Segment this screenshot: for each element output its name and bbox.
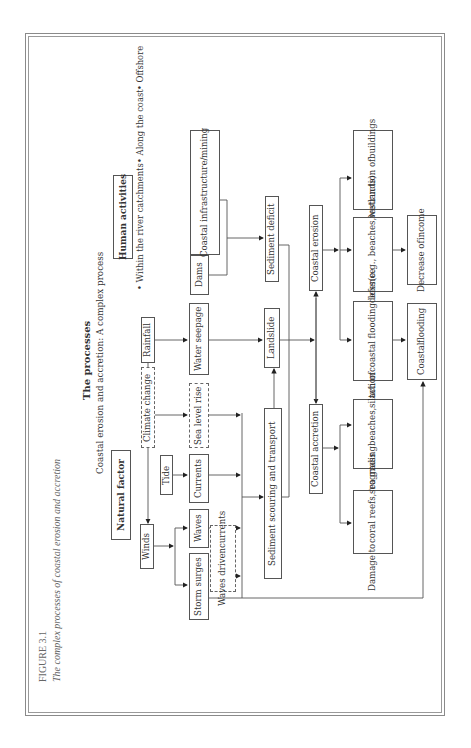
human-activities-header: Human activities — [113, 175, 133, 259]
diagram-title: The processes — [80, 300, 94, 420]
breach-line2: coastal flooding — [368, 303, 378, 372]
damage-line1: Damage to — [368, 543, 378, 590]
node-coastal-accretion: Coastal accretion — [309, 404, 323, 494]
node-climate-change: Climate change — [141, 367, 155, 448]
habitat-line3: wetlands) — [368, 175, 378, 218]
infra-line1: Coastal infrastructure/ — [200, 158, 210, 257]
flooding-line1: Coastal — [417, 343, 427, 376]
node-sea-level-rise: Sea level rise — [189, 383, 209, 448]
node-breach-defence: Breach of coastal flooding defence — [353, 301, 393, 381]
damage-line3: sea grass — [368, 453, 378, 494]
node-currents: Currents — [189, 454, 209, 503]
income-line2: income — [417, 208, 427, 240]
bullet-offshore: • Offshore — [136, 46, 146, 90]
node-waves: Waves — [189, 509, 209, 548]
waves-driven-line2: currents — [218, 511, 228, 548]
node-sediment-scouring: Sediment scouring and transport — [264, 408, 282, 579]
node-decrease-income: Decrease of income — [407, 215, 437, 285]
node-water-seepage: Water seepage — [189, 303, 209, 375]
bullet-river-catchments: • Within the river catchments — [136, 163, 146, 290]
node-damage-reefs: Damage to coral reefs, sea grass — [353, 490, 393, 554]
node-landslide: Landslide — [264, 308, 280, 368]
node-rainfall: Rainfall — [141, 317, 155, 363]
node-coastal-infrastructure: Coastal infrastructure/ mining — [190, 130, 220, 255]
diagram-subtitle: Coastal erosion and accretion: A complex… — [94, 250, 107, 476]
node-coastal-flooding: Coastal flooding — [407, 303, 437, 380]
node-tide: Tide — [160, 455, 173, 495]
node-coastal-erosion: Coastal erosion — [309, 205, 323, 291]
breach-line3: defence — [368, 268, 378, 302]
infra-line2: mining — [200, 128, 210, 158]
node-dams: Dams — [190, 255, 209, 295]
node-storm-surges: Storm surges — [189, 553, 209, 620]
node-waves-driven-currents: Waves driven currents — [210, 525, 236, 592]
bullet-along-coast: • Along the coast — [136, 90, 146, 164]
natural-factor-header: Natural factor — [111, 450, 131, 540]
node-winds: Winds — [140, 524, 154, 569]
flooding-line2: flooding — [417, 308, 427, 343]
damage-line2: coral reefs, — [368, 494, 378, 543]
figure-caption: The complex processes of coastal erosion… — [50, 400, 64, 682]
human-activities-list: • Within the river catchments • Along th… — [136, 140, 178, 290]
connector-lines — [0, 0, 471, 748]
prograding-line2: beaches, — [368, 408, 378, 446]
figure-label: FIGURE 3.1 — [36, 600, 50, 682]
node-sediment-deficit: Sediment deficit — [265, 196, 279, 282]
destruction-line2: buildings — [368, 119, 378, 159]
income-line1: Decrease of — [417, 240, 427, 292]
prograding-line3: siltation — [368, 373, 378, 408]
waves-driven-line1: Waves driven — [218, 548, 228, 606]
